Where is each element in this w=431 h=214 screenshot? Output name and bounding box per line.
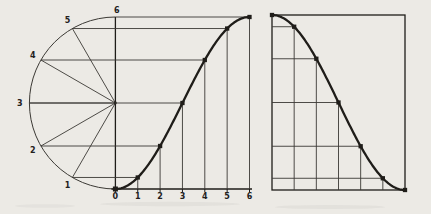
circle-point-label-4: 4 — [30, 51, 36, 60]
radius-line-5 — [72, 29, 115, 103]
falling-curve-dot-4 — [359, 144, 363, 148]
curve-point-dot-4 — [203, 58, 207, 62]
falling-curve-dot-6 — [403, 188, 407, 192]
circle-point-label-2: 2 — [30, 146, 36, 155]
x-axis-label-1: 1 — [135, 192, 141, 201]
circle-to-curve-construction-figure: 0123456123456 — [0, 0, 431, 214]
circle-point-label-1: 1 — [65, 181, 71, 190]
falling-curve-dot-1 — [292, 25, 296, 29]
x-axis-label-2: 2 — [157, 192, 163, 201]
curve-point-dot-1 — [136, 175, 140, 179]
circle-point-label-6: 6 — [114, 6, 120, 15]
x-axis-label-4: 4 — [202, 192, 208, 201]
scan-smudge-0 — [100, 202, 240, 206]
x-axis-label-3: 3 — [180, 192, 186, 201]
figure-page: 0123456123456 — [0, 0, 431, 214]
scan-smudge-1 — [275, 205, 385, 209]
radius-line-4 — [41, 60, 115, 103]
radius-line-1 — [72, 103, 115, 177]
circle-point-label-5: 5 — [65, 16, 71, 25]
circle-point-label-3: 3 — [17, 99, 23, 108]
curve-point-dot-2 — [158, 144, 162, 148]
curve-point-dot-5 — [225, 26, 229, 30]
falling-curve-dot-2 — [314, 57, 318, 61]
radius-line-2 — [41, 103, 115, 146]
x-axis-label-6: 6 — [247, 192, 253, 201]
falling-curve-dot-3 — [336, 100, 340, 104]
scan-smudge-2 — [15, 204, 75, 208]
falling-curve-dot-0 — [270, 13, 274, 17]
falling-curve-dot-5 — [381, 176, 385, 180]
curve-point-dot-6 — [247, 15, 251, 19]
x-axis-label-5: 5 — [224, 192, 230, 201]
curve-point-dot-3 — [180, 101, 184, 105]
x-axis-label-0: 0 — [113, 192, 119, 201]
curve-origin-dot — [113, 187, 118, 192]
